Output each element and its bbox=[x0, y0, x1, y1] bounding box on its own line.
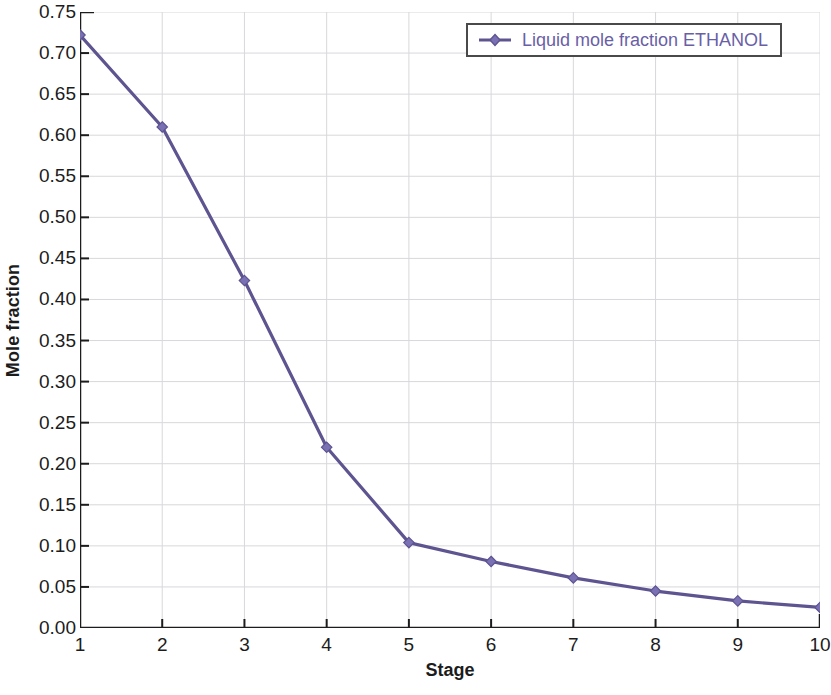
x-tick-label: 2 bbox=[142, 634, 182, 656]
y-tick-label: 0.45 bbox=[10, 247, 76, 269]
x-tick-label: 5 bbox=[389, 634, 429, 656]
x-tick-label: 10 bbox=[800, 634, 831, 656]
y-tick-label: 0.55 bbox=[10, 165, 76, 187]
gridlines bbox=[80, 12, 820, 628]
chart-container: Mole fraction 0.000.050.100.150.200.250.… bbox=[0, 0, 831, 695]
data-point bbox=[568, 573, 578, 583]
y-tick-label: 0.10 bbox=[10, 535, 76, 557]
y-tick-label: 0.70 bbox=[10, 42, 76, 64]
y-axis-title-text: Mole fraction bbox=[4, 263, 25, 376]
y-tick-label: 0.15 bbox=[10, 494, 76, 516]
x-tick-label: 7 bbox=[553, 634, 593, 656]
data-point bbox=[733, 596, 743, 606]
x-tick-label: 9 bbox=[718, 634, 758, 656]
x-tick-label: 1 bbox=[60, 634, 100, 656]
y-tick-label: 0.35 bbox=[10, 330, 76, 352]
y-tick-label: 0.75 bbox=[10, 1, 76, 23]
axis-lines bbox=[80, 12, 820, 628]
data-point bbox=[486, 556, 496, 566]
x-axis-title: Stage bbox=[70, 660, 830, 681]
plot-svg bbox=[80, 12, 820, 628]
y-tick-label: 0.50 bbox=[10, 206, 76, 228]
chart-legend: Liquid mole fraction ETHANOL bbox=[466, 23, 782, 57]
y-tick-label: 0.40 bbox=[10, 288, 76, 310]
y-axis-tick-labels: 0.000.050.100.150.200.250.300.350.400.45… bbox=[0, 0, 76, 695]
y-tick-label: 0.00 bbox=[10, 617, 76, 639]
y-tick-label: 0.25 bbox=[10, 412, 76, 434]
y-axis-title: Mole fraction bbox=[0, 0, 28, 640]
diamond-marker-icon bbox=[478, 33, 512, 47]
y-tick-label: 0.05 bbox=[10, 576, 76, 598]
legend-label-ethanol: Liquid mole fraction ETHANOL bbox=[522, 31, 768, 49]
x-tick-label: 3 bbox=[224, 634, 264, 656]
x-tick-label: 8 bbox=[636, 634, 676, 656]
y-tick-label: 0.20 bbox=[10, 453, 76, 475]
x-tick-label: 6 bbox=[471, 634, 511, 656]
y-tick-label: 0.65 bbox=[10, 83, 76, 105]
y-tick-label: 0.60 bbox=[10, 124, 76, 146]
y-tick-label: 0.30 bbox=[10, 371, 76, 393]
x-tick-label: 4 bbox=[307, 634, 347, 656]
series-1 bbox=[80, 30, 820, 613]
data-point bbox=[815, 602, 820, 612]
plot-area bbox=[80, 12, 820, 628]
